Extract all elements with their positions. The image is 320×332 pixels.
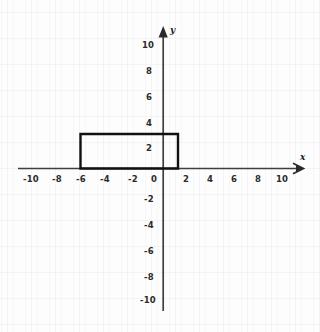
x-tick-label-8: 8 xyxy=(255,174,261,184)
x-tick-label--6: -6 xyxy=(76,174,86,184)
y-tick-label-8: 8 xyxy=(146,66,152,76)
y-tick-label--6: -6 xyxy=(144,246,154,256)
x-tick-label--8: -8 xyxy=(52,174,62,184)
y-axis-arrowhead xyxy=(159,26,168,38)
y-axis-name: y xyxy=(170,25,175,35)
origin-label: 0 xyxy=(151,174,157,184)
x-tick-label-10: 10 xyxy=(276,174,288,184)
y-tick-label-6: 6 xyxy=(146,92,152,102)
y-tick-label--10: -10 xyxy=(140,295,156,305)
x-axis-name: x xyxy=(300,152,305,162)
y-tick-label--8: -8 xyxy=(144,272,154,282)
graph-screenshot: -10 -8 -6 -4 -2 0 2 4 6 8 10 10 8 6 4 2 … xyxy=(0,0,320,332)
y-tick-label-4: 4 xyxy=(146,118,152,128)
y-tick-label--4: -4 xyxy=(144,220,154,230)
y-tick-label-2: 2 xyxy=(146,143,152,153)
y-tick-label--2: -2 xyxy=(144,194,154,204)
x-tick-label-4: 4 xyxy=(207,174,213,184)
x-tick-label-2: 2 xyxy=(183,174,189,184)
coordinate-plane xyxy=(0,0,320,332)
x-tick-label-6: 6 xyxy=(231,174,237,184)
y-tick-label-10: 10 xyxy=(142,40,154,50)
x-tick-label--10: -10 xyxy=(23,174,39,184)
x-tick-label--4: -4 xyxy=(100,174,110,184)
x-tick-label--2: -2 xyxy=(128,174,138,184)
